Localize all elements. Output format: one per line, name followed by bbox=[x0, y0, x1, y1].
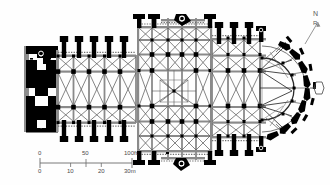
scale-tick-m-0: 0 bbox=[38, 168, 41, 174]
scale-tick-ft-0: 0 bbox=[38, 150, 41, 156]
scale-tick-m-20: 20 bbox=[98, 168, 105, 174]
scale-tick-m-10: 10 bbox=[67, 168, 74, 174]
scale-bar: 0 50 100ft 0 10 20 30m bbox=[38, 150, 134, 176]
scale-tick-ft-100: 100ft bbox=[124, 150, 137, 156]
floor-plan-figure: N R 0 50 100ft 0 10 20 30m bbox=[0, 0, 330, 185]
north-arrow: N R bbox=[296, 10, 326, 46]
scale-tick-ft-50: 50 bbox=[82, 150, 89, 156]
north-arrow-label-n: N bbox=[313, 10, 318, 17]
north-arrow-label-sub: R bbox=[313, 20, 317, 26]
scale-tick-m-30: 30m bbox=[124, 168, 136, 174]
